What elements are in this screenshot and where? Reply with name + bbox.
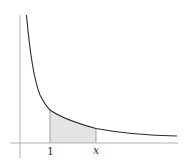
label-lower-bound: 1	[47, 145, 54, 158]
hyperbola-curve	[27, 15, 178, 136]
hyperbola-area-diagram: 1 x	[0, 0, 188, 162]
label-upper-bound: x	[93, 144, 100, 157]
